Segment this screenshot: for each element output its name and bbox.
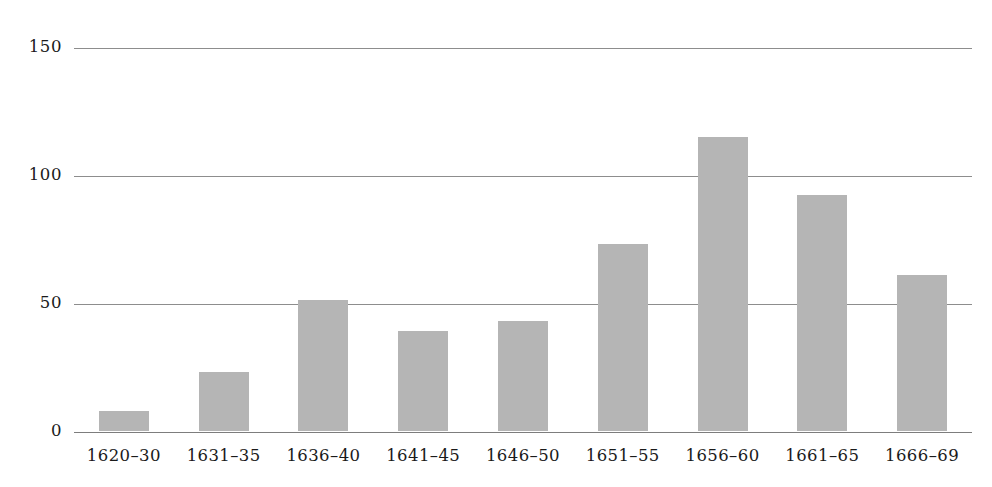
x-axis-labels: 1620–301631–351636–401641–451646–501651–… [74, 447, 972, 477]
bar [797, 195, 847, 431]
bar [199, 372, 249, 431]
bar [698, 137, 748, 431]
y-tick-label-0: 0 [4, 423, 62, 440]
bar [398, 331, 448, 431]
bar [897, 275, 947, 431]
y-tick-label-100: 100 [4, 167, 62, 184]
bars-group [74, 48, 972, 432]
x-tick-label: 1666–69 [862, 447, 982, 465]
y-axis-labels: 050100150 [0, 0, 62, 487]
y-tick-label-150: 150 [4, 39, 62, 56]
bar [498, 321, 548, 431]
x-axis-baseline [74, 432, 972, 433]
bar-chart-figure: 050100150 1620–301631–351636–401641–4516… [0, 0, 992, 487]
plot-area [74, 48, 972, 432]
bar [598, 244, 648, 431]
bar [298, 300, 348, 431]
y-tick-label-50: 50 [4, 295, 62, 312]
bar [99, 411, 149, 431]
